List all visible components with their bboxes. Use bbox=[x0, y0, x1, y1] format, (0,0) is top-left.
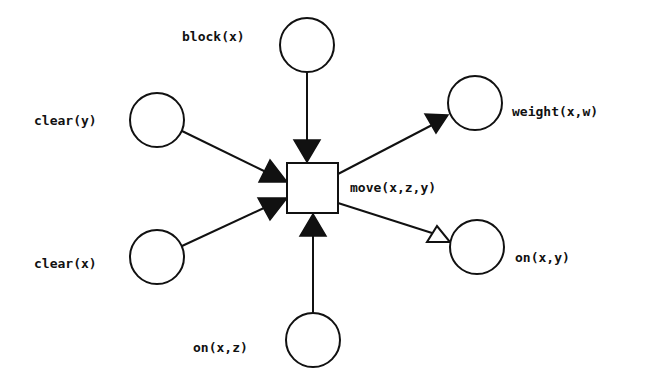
label-move: move(x,z,y) bbox=[350, 180, 436, 196]
arc-clearx-to-move bbox=[182, 207, 266, 246]
hollow-arrowhead-icon bbox=[427, 226, 450, 242]
petri-net-diagram: block(x) clear(y) clear(x) on(x,z) weigh… bbox=[0, 0, 651, 390]
arc-cleary-to-move bbox=[182, 131, 266, 172]
arrowhead-up-icon bbox=[300, 214, 326, 236]
label-on-x-y: on(x,y) bbox=[515, 250, 570, 266]
label-on-x-z: on(x,z) bbox=[193, 340, 248, 356]
diagram-canvas bbox=[0, 0, 651, 390]
place-weight-x-w[interactable] bbox=[448, 76, 502, 130]
arrowhead-icon bbox=[425, 114, 448, 133]
place-on-x-z[interactable] bbox=[286, 313, 340, 367]
label-weight-x-w: weight(x,w) bbox=[512, 104, 598, 120]
arrowhead-down-icon bbox=[294, 140, 320, 162]
place-on-x-y[interactable] bbox=[450, 220, 504, 274]
label-block-x: block(x) bbox=[182, 29, 245, 45]
label-clear-x: clear(x) bbox=[34, 256, 97, 272]
transition-move[interactable] bbox=[287, 163, 338, 213]
place-block-x[interactable] bbox=[280, 18, 334, 72]
arc-move-to-onxy bbox=[338, 203, 432, 233]
arc-move-to-weight bbox=[338, 124, 434, 174]
label-clear-y: clear(y) bbox=[34, 113, 97, 129]
place-clear-y[interactable] bbox=[130, 93, 184, 147]
place-clear-x[interactable] bbox=[130, 230, 184, 284]
